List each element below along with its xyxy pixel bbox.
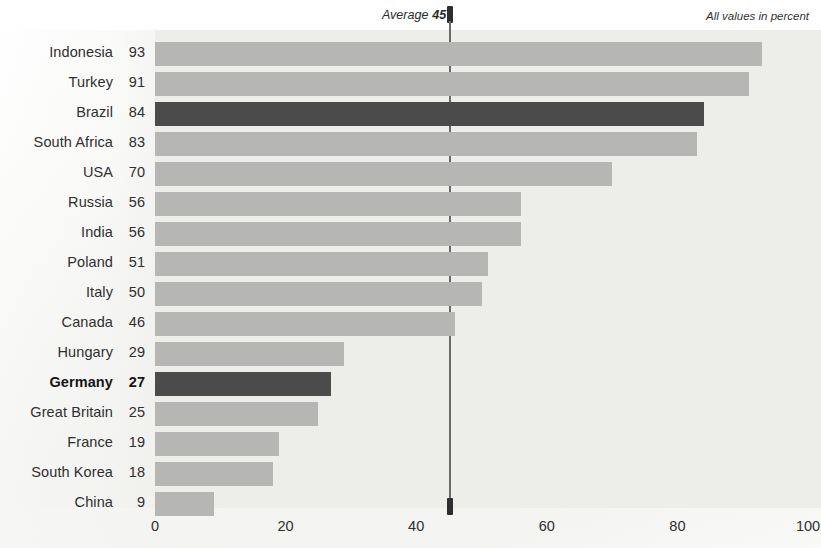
bar-rows: Indonesia93Turkey91Brazil84South Africa8… [0,40,821,520]
bar-row: Italy50 [0,280,821,310]
bar [155,372,331,396]
bar-row-value: 29 [113,344,145,360]
bar-row-label: Russia [68,194,113,210]
bar-row-value: 18 [113,464,145,480]
bar-row: Germany27 [0,370,821,400]
bar-row-label: Turkey [69,74,113,90]
units-note: All values in percent [706,10,809,22]
bar-row: India56 [0,220,821,250]
bar-row-label: Indonesia [49,44,113,60]
bar-track [155,72,821,96]
bar [155,162,612,186]
bar-row-value: 56 [113,224,145,240]
average-value: 45 [432,8,446,22]
bar-row: South Africa83 [0,130,821,160]
bar-row-value: 84 [113,104,145,120]
bar-chart: Average45 All values in percent Indonesi… [0,0,821,548]
bar-track [155,222,821,246]
average-label: Average [382,8,428,22]
bar-track [155,132,821,156]
bar-row-value: 46 [113,314,145,330]
bar-row-value: 51 [113,254,145,270]
bar-row-label: Great Britain [30,404,113,420]
bar-row-value: 70 [113,164,145,180]
bar-row: USA70 [0,160,821,190]
bar [155,342,344,366]
bar-row: Indonesia93 [0,40,821,70]
bar-row-value: 50 [113,284,145,300]
bar [155,312,455,336]
bar [155,42,762,66]
bar [155,402,318,426]
bar-row-label: Poland [67,254,113,270]
bar-row-label: Germany [49,374,113,390]
bar [155,252,488,276]
bar-track [155,102,821,126]
bar [155,102,704,126]
bar-track [155,462,821,486]
average-annotation: Average45 [382,8,446,22]
bar-track [155,402,821,426]
bar-track [155,312,821,336]
bar-row: Russia56 [0,190,821,220]
x-axis-tick-label: 80 [669,518,685,534]
bar [155,432,279,456]
x-axis-tick-label: 40 [408,518,424,534]
bar-row: Canada46 [0,310,821,340]
bar-row: Great Britain25 [0,400,821,430]
x-axis-tick-label: 60 [539,518,555,534]
bar-row-label: Italy [86,284,113,300]
x-axis-tick-label: 0 [151,518,159,534]
bar-row: France19 [0,430,821,460]
bar-row-label: USA [83,164,113,180]
bar-row-label: South Korea [31,464,113,480]
bar-row-label: France [67,434,113,450]
bar-track [155,162,821,186]
x-axis: 020406080100 [0,508,821,548]
bar-row: Hungary29 [0,340,821,370]
bar [155,222,521,246]
x-axis-tick-label: 20 [278,518,294,534]
bar-track [155,282,821,306]
x-axis-tick-label: 100 [796,518,820,534]
bar-track [155,42,821,66]
bar [155,282,482,306]
bar [155,132,697,156]
bar-track [155,432,821,456]
bar-row-label: Hungary [57,344,113,360]
bar-track [155,192,821,216]
bar-row-label: South Africa [34,134,113,150]
bar-row: Brazil84 [0,100,821,130]
bar-row: Poland51 [0,250,821,280]
bar-row-label: India [81,224,113,240]
bar-track [155,252,821,276]
bar-row-value: 19 [113,434,145,450]
bar-row-value: 83 [113,134,145,150]
bar-row-label: Canada [62,314,113,330]
bar [155,72,749,96]
bar-row-value: 25 [113,404,145,420]
bar-row-value: 91 [113,74,145,90]
bar-track [155,342,821,366]
bar-row-value: 27 [113,374,145,390]
bar-track [155,372,821,396]
bar [155,462,273,486]
bar-row-label: Brazil [76,104,113,120]
bar-row: Turkey91 [0,70,821,100]
bar-row: South Korea18 [0,460,821,490]
bar-row-value: 93 [113,44,145,60]
bar-row-value: 56 [113,194,145,210]
bar [155,192,521,216]
